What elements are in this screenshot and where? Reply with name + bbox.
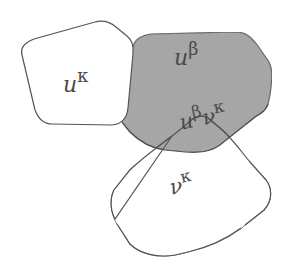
overlap-diagram <box>0 0 298 268</box>
label-u-beta: uβ <box>174 47 198 69</box>
label-u-kappa-sup: κ <box>77 66 88 86</box>
label-u-kappa-base: u <box>63 72 77 97</box>
label-u-beta-sup: β <box>188 39 198 59</box>
label-u-kappa: uκ <box>63 74 88 96</box>
label-u-beta-base: u <box>174 45 188 70</box>
